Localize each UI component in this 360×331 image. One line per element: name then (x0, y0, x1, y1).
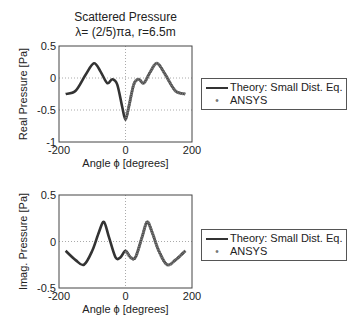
svg-text:200: 200 (183, 144, 201, 156)
svg-text:200: 200 (183, 290, 201, 302)
svg-text:Angle ϕ [degrees]: Angle ϕ [degrees] (82, 157, 168, 169)
svg-text:-200: -200 (48, 290, 70, 302)
line-swatch-icon (206, 238, 228, 240)
svg-text:-200: -200 (48, 144, 70, 156)
svg-text:0: 0 (122, 290, 128, 302)
legend-top: Theory: Small Dist. Eq. •ANSYS (201, 78, 347, 110)
svg-text:-0.5: -0.5 (37, 104, 56, 116)
legend-item-theory: Theory: Small Dist. Eq. (206, 232, 342, 245)
svg-text:0: 0 (122, 144, 128, 156)
svg-text:0.5: 0.5 (41, 40, 56, 52)
svg-text:Real Pressure [Pa]: Real Pressure [Pa] (17, 48, 29, 140)
dot-marker-icon: • (206, 245, 228, 258)
svg-text:Angle ϕ [degrees]: Angle ϕ [degrees] (82, 303, 168, 315)
svg-text:Imag. Pressure [Pa]: Imag. Pressure [Pa] (17, 193, 29, 290)
legend-bottom: Theory: Small Dist. Eq. •ANSYS (201, 229, 347, 261)
svg-text:0: 0 (50, 236, 56, 248)
legend-item-theory: Theory: Small Dist. Eq. (206, 81, 342, 94)
dot-marker-icon: • (206, 94, 228, 107)
chart-canvas: 0.50-0.5-1-2000200Angle ϕ [degrees]Real … (0, 0, 360, 331)
ansys-markers (126, 63, 186, 119)
line-swatch-icon (206, 87, 228, 89)
legend-item-ansys: •ANSYS (206, 245, 342, 258)
svg-text:0.5: 0.5 (41, 189, 56, 201)
legend-item-ansys: •ANSYS (206, 94, 342, 107)
svg-text:0: 0 (50, 72, 56, 84)
